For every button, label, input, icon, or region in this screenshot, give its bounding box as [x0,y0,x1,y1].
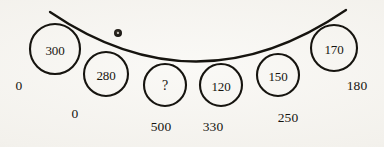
label-lower-0: 0 [72,107,79,121]
sagging-curve [50,10,346,62]
label-left-0: 0 [16,79,23,93]
figure-canvas: 300280?120150170 01800500330250 [0,0,384,147]
curve-path [50,10,346,62]
node-150-label: 150 [269,69,288,82]
ink-speck-group [114,29,122,37]
figure-graphic [0,0,384,147]
node-circle-group [30,24,357,106]
label-right-180: 180 [347,79,368,93]
node-170-label: 170 [325,42,344,55]
ink-speck-highlight [117,32,119,34]
node-120-label: 120 [212,79,231,92]
node-280-label: 280 [97,68,116,81]
label-lower-250: 250 [278,111,299,125]
label-lower-330: 330 [203,120,224,134]
node-unknown-label: ? [162,79,168,93]
label-lower-500: 500 [151,120,172,134]
node-300-label: 300 [46,43,65,56]
